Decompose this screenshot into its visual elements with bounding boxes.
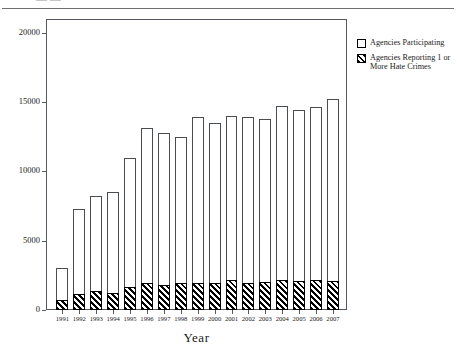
y-axis: 05000100001500020000	[0, 0, 46, 330]
y-tick-label: 15000	[19, 96, 40, 107]
bar-group	[192, 19, 204, 310]
bar-agencies-reporting-hate-crimes	[124, 287, 136, 310]
bar-group	[310, 19, 322, 310]
bar-agencies-reporting-hate-crimes	[310, 280, 322, 310]
bar-agencies-participating	[192, 117, 204, 310]
bar-agencies-reporting-hate-crimes	[226, 280, 238, 310]
legend-label: Agencies Participating	[370, 38, 444, 47]
y-tick-label: 5000	[23, 235, 40, 246]
y-tick-mark	[42, 310, 46, 311]
bar-series-container	[46, 19, 347, 310]
bar-agencies-reporting-hate-crimes	[90, 291, 102, 310]
x-axis-tick-labels: 1991199219931994199519961997199819992000…	[46, 314, 347, 326]
x-tick-label: 2007	[322, 314, 344, 323]
bar-agencies-reporting-hate-crimes	[327, 281, 339, 310]
bar-agencies-participating	[327, 99, 339, 310]
bar-group	[209, 19, 221, 310]
legend-label: Agencies Reporting 1 or More Hate Crimes	[370, 53, 455, 72]
x-axis-title: Year	[46, 330, 347, 346]
bar-group	[158, 19, 170, 310]
legend-item: Agencies Participating	[357, 38, 455, 48]
legend-swatch-hatched-icon	[357, 54, 366, 63]
bar-group	[73, 19, 85, 310]
bar-group	[327, 19, 339, 310]
chart-legend: Agencies ParticipatingAgencies Reporting…	[357, 38, 455, 77]
bar-group	[259, 19, 271, 310]
bar-agencies-participating	[209, 123, 221, 310]
bar-agencies-reporting-hate-crimes	[242, 283, 254, 310]
chart-page: — — 05000100001500020000 199119921993199…	[0, 0, 457, 350]
header-divider	[2, 8, 454, 9]
bar-agencies-reporting-hate-crimes	[209, 283, 221, 310]
bar-group	[107, 19, 119, 310]
bar-agencies-reporting-hate-crimes	[56, 300, 68, 310]
bar-agencies-reporting-hate-crimes	[141, 283, 153, 310]
bar-group	[56, 19, 68, 310]
y-tick-label: 20000	[19, 27, 40, 38]
y-tick-label: 0	[36, 304, 40, 315]
bar-agencies-reporting-hate-crimes	[107, 293, 119, 310]
bar-group	[276, 19, 288, 310]
bar-agencies-participating	[158, 133, 170, 310]
bar-group	[242, 19, 254, 310]
bar-group	[124, 19, 136, 310]
bar-agencies-participating	[242, 117, 254, 310]
bar-agencies-reporting-hate-crimes	[259, 282, 271, 310]
bar-agencies-reporting-hate-crimes	[293, 281, 305, 310]
legend-swatch-open-icon	[357, 39, 366, 48]
bar-agencies-reporting-hate-crimes	[276, 280, 288, 310]
bar-agencies-participating	[107, 192, 119, 310]
bar-agencies-reporting-hate-crimes	[73, 294, 85, 310]
bar-group	[293, 19, 305, 310]
bar-group	[175, 19, 187, 310]
y-tick-label: 10000	[19, 165, 40, 176]
legend-item: Agencies Reporting 1 or More Hate Crimes	[357, 53, 455, 72]
bar-group	[141, 19, 153, 310]
bar-group	[90, 19, 102, 310]
bar-group	[226, 19, 238, 310]
bar-agencies-reporting-hate-crimes	[175, 283, 187, 310]
bar-agencies-reporting-hate-crimes	[192, 283, 204, 310]
bar-agencies-reporting-hate-crimes	[158, 285, 170, 310]
